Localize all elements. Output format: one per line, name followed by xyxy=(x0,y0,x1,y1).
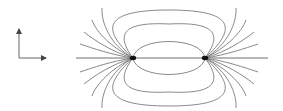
loop-outer-bottom xyxy=(113,58,226,106)
loop-outer-top xyxy=(113,10,226,58)
loop-middle-top xyxy=(124,24,214,58)
loop-middle-bottom xyxy=(124,58,214,92)
coordinate-axes-icon xyxy=(19,29,46,58)
loop-inner-top xyxy=(133,42,205,59)
right-charge-icon xyxy=(202,56,208,60)
field-lines-canvas xyxy=(0,0,283,111)
left-charge-icon xyxy=(130,56,136,60)
loop-inner-bottom xyxy=(133,58,205,75)
dipole-field-diagram: electric-dipole-field-lines xyxy=(0,0,283,111)
